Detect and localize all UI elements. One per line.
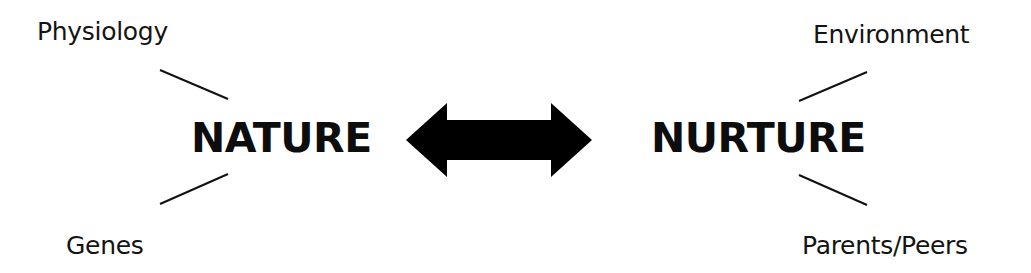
connector-line-parents-peers [799,175,867,205]
connector-line-environment [799,72,867,101]
double-arrow-icon [406,103,592,177]
connector-line-genes [160,174,228,204]
concept-nurture: NURTURE [651,118,866,159]
concept-nature: NATURE [191,118,372,159]
factor-environment: Environment [813,22,969,47]
factor-genes: Genes [66,233,144,258]
factor-physiology: Physiology [37,19,168,44]
connector-line-physiology [160,70,228,99]
factor-parents-peers: Parents/Peers [802,233,968,258]
